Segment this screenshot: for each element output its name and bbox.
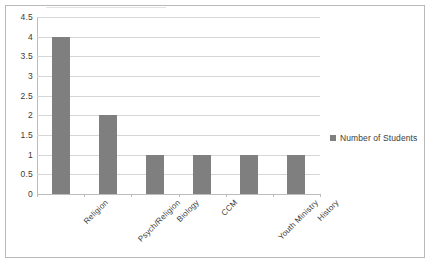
- gridline: [37, 174, 320, 175]
- x-axis-tick-mark: [84, 194, 85, 197]
- x-axis-tick-mark: [179, 194, 180, 197]
- x-axis-tick-mark: [273, 194, 274, 197]
- bar: [52, 37, 70, 194]
- x-axis-label: Psych/Religion: [136, 198, 182, 244]
- gridline: [37, 37, 320, 38]
- y-axis-tick-labels: 00.511.522.533.544.5: [6, 17, 33, 194]
- x-axis-label: CCM: [220, 198, 240, 218]
- y-axis-tick-label: 3.5: [7, 52, 33, 61]
- scan-artifact: [46, 7, 166, 8]
- gridline: [37, 135, 320, 136]
- bar: [146, 155, 164, 194]
- y-axis-tick-label: 1.5: [7, 131, 33, 140]
- gridline: [37, 155, 320, 156]
- gridline: [37, 56, 320, 57]
- gridline: [37, 96, 320, 97]
- x-axis-category-labels: ReligionPsych/ReligionBiologyCCMYouth Mi…: [37, 198, 320, 253]
- bar: [193, 155, 211, 194]
- bar: [99, 115, 117, 194]
- plot-area: [37, 17, 320, 194]
- y-axis-tick-label: 1: [7, 150, 33, 159]
- chart-container: 00.511.522.533.544.5 ReligionPsych/Relig…: [5, 5, 425, 258]
- gridline: [37, 17, 320, 18]
- y-axis-tick-label: 4: [7, 32, 33, 41]
- x-axis-tick-mark: [131, 194, 132, 197]
- y-axis-tick-label: 2.5: [7, 91, 33, 100]
- x-axis-label: Religion: [82, 198, 110, 226]
- x-axis-label: History: [316, 198, 341, 223]
- gridline: [37, 115, 320, 116]
- legend-swatch-icon: [330, 135, 336, 141]
- bar: [287, 155, 305, 194]
- x-axis-label: Youth Ministry: [277, 198, 321, 242]
- bar: [240, 155, 258, 194]
- y-axis-tick-label: 4.5: [7, 13, 33, 22]
- x-axis-tick-mark: [320, 194, 321, 197]
- chart-legend: Number of Students: [330, 133, 417, 143]
- y-axis-tick-label: 2: [7, 111, 33, 120]
- y-axis-tick-label: 0.5: [7, 170, 33, 179]
- y-axis-tick-label: 3: [7, 72, 33, 81]
- y-axis-tick-label: 0: [7, 190, 33, 199]
- gridline: [37, 76, 320, 77]
- x-axis-tick-mark: [226, 194, 227, 197]
- x-axis-tick-mark: [37, 194, 38, 197]
- legend-label: Number of Students: [340, 133, 417, 143]
